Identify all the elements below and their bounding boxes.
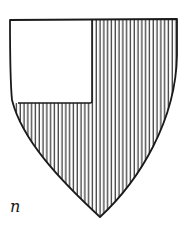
figure-label: n <box>10 199 20 215</box>
canton <box>8 18 92 103</box>
shield-illustration <box>0 0 191 235</box>
field-hatching <box>0 0 191 235</box>
